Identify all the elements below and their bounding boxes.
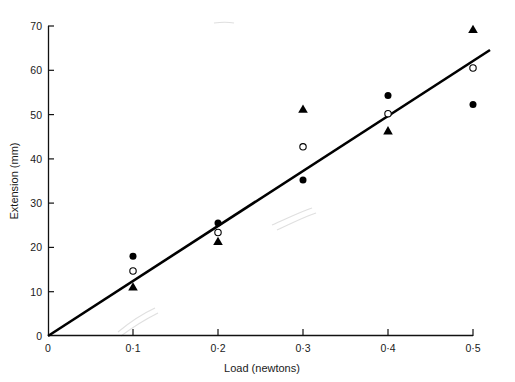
x-tick-label: 0·3 <box>295 342 310 354</box>
y-tick-label: 30 <box>30 197 42 209</box>
y-tick-label: 60 <box>30 64 42 76</box>
x-tick-label: 0·1 <box>125 342 140 354</box>
y-tick-label: 70 <box>30 20 42 32</box>
data-point-filled-circle <box>300 177 307 184</box>
x-axis-title: Load (newtons) <box>224 362 300 374</box>
data-point-filled-triangle <box>383 126 393 134</box>
data-point-filled-triangle <box>298 104 308 112</box>
series-filled-circle <box>130 92 477 260</box>
x-tick-label: 0·2 <box>210 342 225 354</box>
data-point-filled-triangle <box>468 25 478 33</box>
y-tick-label: 0 <box>36 330 42 342</box>
y-tick-label: 10 <box>30 286 42 298</box>
x-axis-tick-labels: 0 0·1 0·2 0·3 0·4 0·5 <box>45 342 481 354</box>
y-axis-title: Extension (mm) <box>8 142 20 219</box>
data-point-filled-circle <box>215 220 222 227</box>
data-point-filled-circle <box>385 92 392 99</box>
scatter-plot: 70 60 50 40 30 20 10 0 0 0·1 0·2 0·3 0·4… <box>0 0 515 382</box>
best-fit-line <box>48 50 490 336</box>
chart-figure: 70 60 50 40 30 20 10 0 0 0·1 0·2 0·3 0·4… <box>0 0 515 382</box>
data-point-open-circle <box>215 229 221 235</box>
x-tick-label: 0·4 <box>380 342 395 354</box>
y-tick-label: 40 <box>30 153 42 165</box>
data-point-open-circle <box>300 144 306 150</box>
y-axis-tick-labels: 70 60 50 40 30 20 10 0 <box>30 20 42 342</box>
data-point-filled-circle <box>470 101 477 108</box>
data-point-open-circle <box>385 111 391 117</box>
data-point-filled-circle <box>130 253 137 260</box>
y-tick-label: 50 <box>30 109 42 121</box>
data-point-open-circle <box>130 268 136 274</box>
scan-artifacts <box>118 22 316 336</box>
y-tick-label: 20 <box>30 241 42 253</box>
data-point-filled-triangle <box>213 237 223 245</box>
x-tick-label: 0·5 <box>465 342 480 354</box>
x-tick-label: 0 <box>45 342 51 354</box>
data-point-open-circle <box>470 65 476 71</box>
